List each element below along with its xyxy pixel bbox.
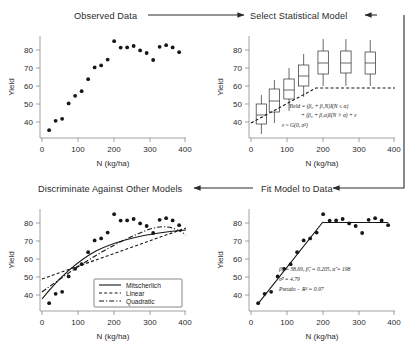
panel-title-discriminate: Discriminate Against Other Models	[38, 184, 182, 194]
panel-fit-model: 0 100 200 300 400 40 50 60 70 80 N (kg/h…	[209, 195, 409, 345]
panel-title-select: Select Statistical Model	[250, 11, 347, 21]
data-point	[334, 219, 338, 223]
xtick-3: 300	[143, 318, 157, 327]
data-point	[158, 45, 162, 49]
data-point	[80, 89, 84, 93]
workflow-figure: Observed Data 0 100 200 300	[0, 0, 418, 346]
data-point	[67, 275, 71, 279]
xtick-1: 100	[280, 145, 294, 154]
ytick-3: 70	[233, 237, 242, 246]
ytick-4: 80	[233, 46, 242, 55]
boxplot-box	[256, 104, 266, 124]
model-legend: Mitscherlich Linear Quadratic	[94, 279, 182, 307]
data-point	[138, 49, 142, 53]
xtick-1: 100	[71, 318, 85, 327]
legend-label-mitscherlich: Mitscherlich	[126, 282, 161, 289]
legend-label-linear: Linear	[126, 290, 145, 297]
data-point	[151, 58, 155, 62]
fit-model-chart: 0 100 200 300 400 40 50 60 70 80 N (kg/h…	[209, 195, 409, 345]
data-point	[164, 43, 168, 47]
data-point	[315, 231, 319, 235]
y-tick-labels: 40 50 60 70 80	[233, 46, 242, 127]
xtick-2: 200	[107, 318, 121, 327]
data-point	[269, 290, 273, 294]
legend-label-quadratic: Quadratic	[126, 298, 155, 306]
ytick-0: 40	[233, 291, 242, 300]
xtick-0: 0	[249, 318, 254, 327]
data-point	[73, 267, 77, 271]
ytick-2: 60	[24, 255, 33, 264]
xtick-1: 100	[280, 318, 294, 327]
observed-chart: 0 100 200 300 400 40 50 60 70 80 N (kg/h…	[0, 22, 200, 172]
select-model-chart: 0 100 200 300 400 40 50 60 70 80 N (kg/h…	[209, 22, 409, 172]
x-axis-label: N (kg/ha)	[306, 159, 339, 168]
ytick-2: 60	[233, 82, 242, 91]
ytick-3: 70	[24, 237, 33, 246]
axes	[36, 36, 186, 142]
data-point	[99, 237, 103, 241]
data-point	[60, 117, 64, 121]
y-axis-label: Yield	[216, 251, 225, 269]
xtick-4: 400	[178, 318, 192, 327]
equation-line-2: + (β₀ + β₁α)I(N > α) + ε	[301, 112, 357, 119]
xtick-3: 300	[352, 318, 366, 327]
data-point	[328, 219, 332, 223]
equation-line-1: Yield = (β₀ + β₁N)I(N ≤ α)	[289, 103, 348, 110]
data-point	[151, 231, 155, 235]
data-point	[125, 46, 129, 50]
data-point	[354, 224, 358, 228]
ytick-0: 40	[24, 291, 33, 300]
y-tick-labels: 40 50 60 70 80	[24, 219, 33, 300]
data-point	[99, 64, 103, 68]
data-point	[80, 262, 84, 266]
data-point	[132, 44, 136, 48]
ytick-3: 70	[24, 64, 33, 73]
ytick-1: 50	[24, 100, 33, 109]
boxplots	[256, 39, 375, 134]
data-point	[171, 46, 175, 50]
x-tick-labels: 0 100 200 300 400	[249, 145, 401, 154]
boxplot-box	[269, 89, 279, 112]
data-point	[132, 217, 136, 221]
panel-observed-data: 0 100 200 300 400 40 50 60 70 80 N (kg/h…	[0, 22, 200, 172]
data-point	[112, 39, 116, 43]
estimate-line-2: σ̂² = 4.79	[279, 276, 300, 282]
data-point	[106, 231, 110, 235]
y-axis-label: Yield	[7, 251, 16, 269]
ytick-4: 80	[233, 219, 242, 228]
y-tick-labels: 40 50 60 70 80	[24, 46, 33, 127]
panel-title-fit: Fit Model to Data	[261, 184, 333, 194]
x-axis-label: N (kg/ha)	[306, 332, 339, 341]
boxplot-box	[298, 65, 308, 86]
xtick-1: 100	[71, 145, 85, 154]
data-point	[54, 119, 58, 123]
xtick-3: 300	[143, 145, 157, 154]
ytick-1: 50	[233, 100, 242, 109]
data-point	[47, 128, 51, 132]
data-point	[256, 301, 260, 305]
boxplot-box	[318, 51, 328, 74]
xtick-4: 400	[387, 145, 401, 154]
data-point	[158, 218, 162, 222]
data-point	[177, 223, 181, 227]
data-point	[295, 250, 299, 254]
data-point	[347, 222, 351, 226]
panel-discriminate-models: 0 100 200 300 400 40 50 60 70 80 N (kg/h…	[0, 195, 200, 345]
xtick-4: 400	[178, 145, 192, 154]
data-point	[373, 216, 377, 220]
x-axis-label: N (kg/ha)	[97, 332, 130, 341]
data-point	[177, 50, 181, 54]
data-point	[119, 219, 123, 223]
data-point	[119, 46, 123, 50]
data-point	[145, 224, 149, 228]
xtick-0: 0	[40, 145, 45, 154]
ytick-2: 60	[233, 255, 242, 264]
data-point	[302, 239, 306, 243]
xtick-2: 200	[107, 145, 121, 154]
data-point	[164, 216, 168, 220]
xtick-0: 0	[40, 318, 45, 327]
parameter-estimates: β̂₀ = 38.69, β̂₁ = 0.205, α̂ = 198 σ̂² =…	[278, 266, 350, 292]
data-point	[125, 219, 129, 223]
data-point	[93, 66, 97, 70]
equation-line-3: ε ~ G(0, σ²)	[282, 122, 308, 129]
